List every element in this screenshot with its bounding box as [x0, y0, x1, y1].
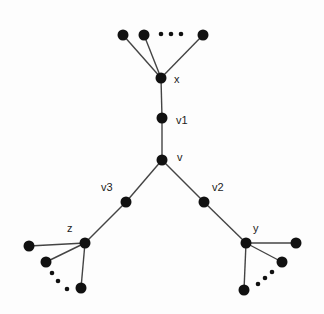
node-label-z: z: [67, 223, 73, 234]
leaf-node: [239, 285, 250, 296]
edge-y-leaf: [244, 243, 246, 290]
edge-v2-y: [204, 202, 246, 243]
edge-v-v2: [162, 160, 204, 202]
leaf-node: [291, 238, 302, 249]
graph-svg: [0, 0, 324, 314]
ellipsis-dot: [159, 32, 164, 37]
leaf-node: [41, 257, 52, 268]
leaf-node: [24, 241, 35, 252]
node-label-v3: v3: [101, 182, 113, 193]
ellipsis-dot: [270, 270, 275, 275]
node-label-x: x: [174, 74, 180, 85]
edge-v3-z: [85, 202, 126, 243]
node-v2: [199, 197, 210, 208]
node-label-v1: v1: [176, 115, 188, 126]
edge-v-v3: [126, 160, 162, 202]
ellipsis-dot: [56, 279, 61, 284]
ellipsis-dot: [65, 287, 70, 292]
node-y: [241, 238, 252, 249]
edge-z-leaf: [29, 243, 85, 246]
leaf-node: [198, 30, 209, 41]
node-z: [80, 238, 91, 249]
ellipsis-dot: [256, 282, 261, 287]
ellipsis-dot: [179, 32, 184, 37]
ellipsis-dot: [169, 32, 174, 37]
edge-x-leaf: [161, 35, 203, 78]
leaf-node: [118, 30, 129, 41]
edge-x-leaf: [144, 35, 161, 78]
edge-x-v1: [161, 78, 162, 118]
ellipsis-dot: [50, 271, 55, 276]
node-v: [157, 155, 168, 166]
graph-diagram: xv1vv3v2zy: [0, 0, 324, 314]
leaf-node: [277, 257, 288, 268]
leaf-node: [139, 30, 150, 41]
node-x: [156, 73, 167, 84]
leaf-node: [76, 283, 87, 294]
edge-y-leaf: [246, 243, 282, 262]
node-label-v2: v2: [212, 182, 224, 193]
node-v1: [157, 113, 168, 124]
edge-z-leaf: [46, 243, 85, 262]
edge-x-leaf: [123, 35, 161, 78]
node-v3: [121, 197, 132, 208]
edge-z-leaf: [81, 243, 85, 288]
node-label-v: v: [177, 152, 183, 163]
ellipsis-dot: [263, 276, 268, 281]
node-label-y: y: [253, 223, 259, 234]
